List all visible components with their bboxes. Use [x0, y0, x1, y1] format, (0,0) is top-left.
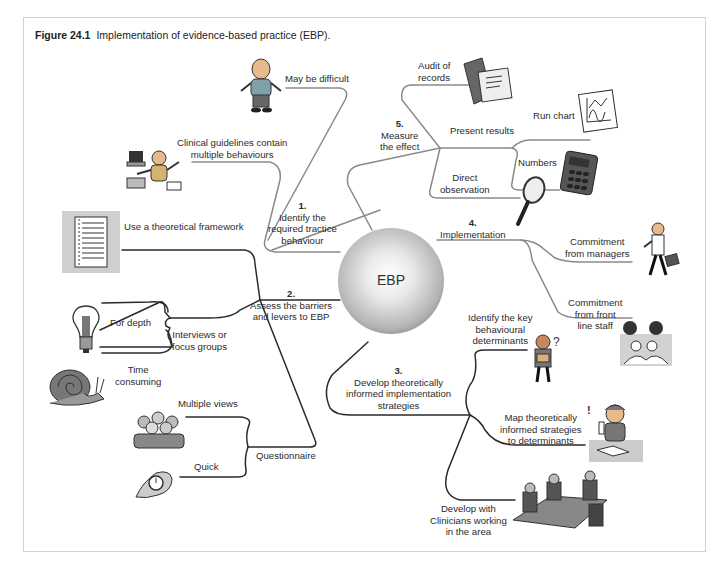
interviews-label: Interviews or focus groups: [172, 329, 227, 352]
branch-3-label: 3. Develop theoretically informed implem…: [346, 365, 451, 411]
run-chart-label: Run chart: [533, 110, 575, 122]
branch-2-label: 2. Assess the barriers and levers to EBP: [250, 288, 332, 323]
numbers-label: Numbers: [518, 157, 557, 169]
identify-determinants-label: Identify the key behavioural determinant…: [468, 312, 533, 347]
map-strategies-label: Map theoretically informed strategies to…: [500, 412, 582, 447]
audit-records-label: Audit of records: [418, 60, 451, 83]
branch-5-label: 5. Measure the effect: [380, 118, 419, 153]
document-icon: [62, 211, 120, 273]
stopwatch-icon: [134, 465, 176, 501]
staff-discussion-icon: [620, 320, 672, 368]
svg-text:?: ?: [553, 335, 560, 349]
commitment-managers-label: Commitment from managers: [565, 236, 630, 259]
branch-1-label: 1. Identify the required tractice behavi…: [268, 200, 337, 246]
thinking-person-icon: !: [585, 400, 643, 462]
multitasking-man-icon: [125, 148, 187, 193]
confused-man-icon: [237, 55, 285, 113]
develop-with-clinicians-label: Develop with Clinicians working in the a…: [430, 503, 507, 538]
calculator-icon: [560, 150, 600, 196]
quick-label: Quick: [194, 461, 219, 473]
commitment-front-line-label: Commitment from front line staff: [568, 297, 622, 332]
group-of-people-icon: [130, 408, 188, 450]
records-folder-icon: [462, 56, 514, 106]
snail-icon: [48, 363, 106, 411]
time-consuming-label: Time consuming: [115, 364, 161, 387]
meeting-table-icon: [511, 470, 611, 530]
magnifying-glass-icon: [512, 176, 548, 228]
clinical-guidelines-label: Clinical guidelines contain multiple beh…: [177, 137, 287, 160]
puzzled-person-icon: ?: [527, 332, 563, 387]
branch-4-label: 4. Implementation: [440, 217, 506, 240]
present-results-label: Present results: [450, 125, 514, 137]
may-be-difficult-label: May be difficult: [285, 73, 349, 85]
theoretical-framework-label: Use a theoretical framework: [124, 221, 243, 233]
ebp-center-node: EBP: [338, 228, 444, 334]
run-chart-icon: [577, 88, 619, 134]
direct-observation-label: Direct observation: [440, 172, 490, 195]
svg-text:!: !: [587, 404, 591, 416]
for-depth-label: For depth: [110, 317, 151, 329]
businessman-icon: [640, 221, 680, 279]
questionnaire-label: Questionnaire: [256, 450, 316, 462]
ebp-center-label: EBP: [338, 272, 444, 288]
lightbulb-icon: [69, 304, 103, 356]
